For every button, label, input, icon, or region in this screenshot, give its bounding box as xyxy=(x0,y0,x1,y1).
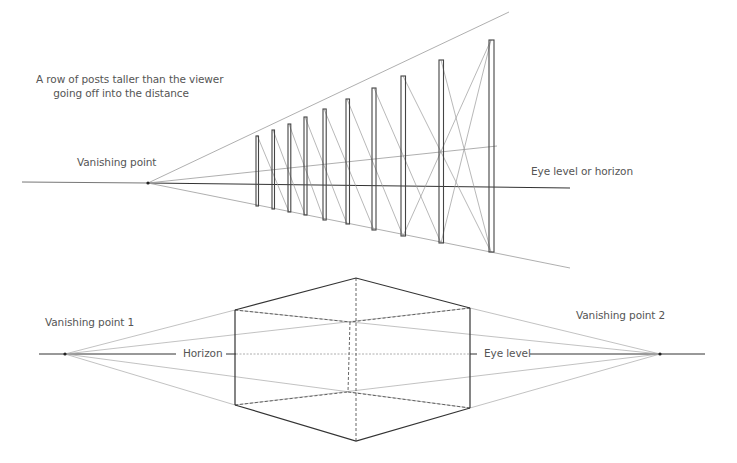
horizon-label: Horizon xyxy=(183,347,222,359)
vp2-guides xyxy=(235,308,660,408)
horizon-line-right xyxy=(148,183,570,188)
eye-level-label: Eye level xyxy=(484,347,531,359)
vanishing-point-1-dot xyxy=(63,352,66,355)
eye-level-horizon-label: Eye level or horizon xyxy=(531,165,633,177)
perspective-diagram xyxy=(0,0,737,463)
horizon-line xyxy=(22,182,148,183)
vanishing-point-label: Vanishing point xyxy=(77,156,156,168)
caption-line-1: A row of posts taller than the viewer xyxy=(36,72,206,86)
two-point-perspective xyxy=(39,278,705,441)
vanishing-point-2-dot xyxy=(658,352,661,355)
hidden-edges xyxy=(235,278,470,441)
bottom-guide-line xyxy=(148,183,570,268)
posts-caption: A row of posts taller than the viewer go… xyxy=(36,72,206,100)
box-edges xyxy=(235,278,470,441)
one-point-perspective xyxy=(22,12,570,268)
caption-line-2: going off into the distance xyxy=(36,86,206,100)
vanishing-point-1-label: Vanishing point 1 xyxy=(45,316,134,328)
post-diagonals xyxy=(257,40,491,252)
posts xyxy=(256,40,494,252)
vanishing-point-dot xyxy=(146,181,149,184)
post xyxy=(256,136,259,206)
vanishing-point-2-label: Vanishing point 2 xyxy=(576,309,665,321)
